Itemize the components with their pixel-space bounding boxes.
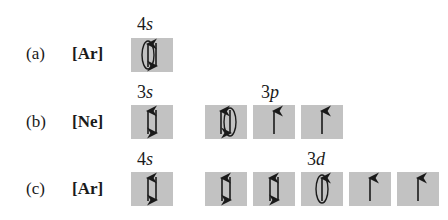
single-electron-circled-up-icon: [301, 172, 343, 206]
orbital-box-3d-2: [253, 172, 295, 206]
orbital-label-3s: 3s: [137, 82, 153, 102]
paired-electrons-icon: [131, 105, 173, 139]
paired-electrons-circled-down-icon: [205, 105, 247, 139]
orbital-box-3d-1: [205, 172, 247, 206]
orbital-box-3d-5: [397, 172, 439, 206]
paired-electrons-icon: [131, 172, 173, 206]
orbital-box-4s: [131, 172, 173, 206]
orbital-box-3s: [131, 105, 173, 139]
core-config-ne: [Ne]: [72, 112, 103, 132]
single-electron-up-icon: [397, 172, 439, 206]
single-electron-up-icon: [301, 105, 343, 139]
row-label-b: (b): [26, 112, 46, 132]
paired-electrons-icon: [205, 172, 247, 206]
orbital-box-3d-3: [301, 172, 343, 206]
orbital-box-3d-4: [349, 172, 391, 206]
orbital-label-3d: 3d: [307, 149, 325, 169]
paired-electrons-circled-up-icon: [131, 38, 173, 72]
orbital-box-3p-2: [253, 105, 295, 139]
single-electron-up-icon: [349, 172, 391, 206]
core-config-ar: [Ar]: [72, 44, 103, 64]
single-electron-up-icon: [253, 105, 295, 139]
orbital-label-4s: 4s: [137, 149, 153, 169]
orbital-box-3p-1: [205, 105, 247, 139]
orbital-box-3p-3: [301, 105, 343, 139]
orbital-box-4s: [131, 38, 173, 72]
orbital-label-3p: 3p: [261, 82, 279, 102]
row-label-c: (c): [26, 179, 45, 199]
core-config-ar: [Ar]: [72, 179, 103, 199]
orbital-label-4s: 4s: [137, 14, 153, 34]
paired-electrons-icon: [253, 172, 295, 206]
row-label-a: (a): [26, 44, 45, 64]
